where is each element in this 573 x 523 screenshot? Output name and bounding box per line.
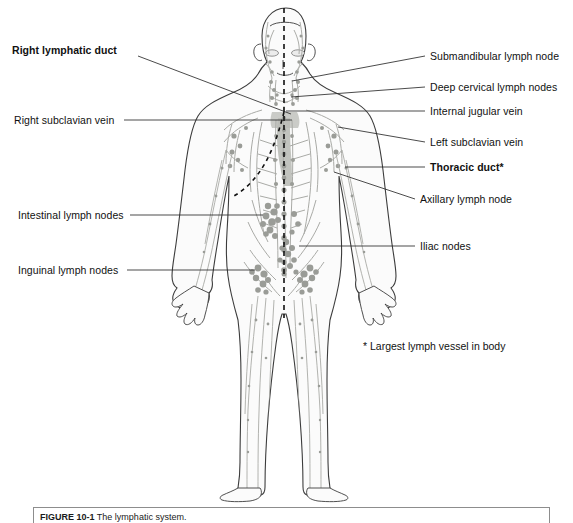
figure-caption-box: FIGURE 10-1 The lymphatic system. xyxy=(33,507,550,523)
label-right-subclavian-vein: Right subclavian vein xyxy=(14,114,114,126)
figure-caption-number: FIGURE 10-1 xyxy=(40,512,95,522)
leader-submandibular-lymph-node xyxy=(292,56,425,81)
label-submandibular-lymph-node: Submandibular lymph node xyxy=(430,50,559,62)
label-deep-cervical-lymph-nodes: Deep cervical lymph nodes xyxy=(430,81,557,93)
leader-axillary-lymph-node xyxy=(334,172,415,199)
figure-caption-title: The lymphatic system. xyxy=(97,512,187,522)
label-intestinal-lymph-nodes: Intestinal lymph nodes xyxy=(18,209,124,221)
label-right-lymphatic-duct: Right lymphatic duct xyxy=(12,44,117,56)
leader-right-lymphatic-duct xyxy=(138,56,291,114)
leader-deep-cervical-lymph-nodes xyxy=(291,87,425,97)
label-internal-jugular-vein: Internal jugular vein xyxy=(430,105,523,117)
label-axillary-lymph-node: Axillary lymph node xyxy=(420,193,512,205)
leader-left-subclavian-vein xyxy=(338,127,425,142)
footnote-largest-lymph-vessel: * Largest lymph vessel in body xyxy=(363,340,505,352)
figure-caption-text: FIGURE 10-1 The lymphatic system. xyxy=(40,512,186,522)
label-inguinal-lymph-nodes: Inguinal lymph nodes xyxy=(18,264,118,276)
label-thoracic-duct: Thoracic duct* xyxy=(430,161,504,173)
label-iliac-nodes: Iliac nodes xyxy=(420,240,471,252)
label-left-subclavian-vein: Left subclavian vein xyxy=(430,136,523,148)
